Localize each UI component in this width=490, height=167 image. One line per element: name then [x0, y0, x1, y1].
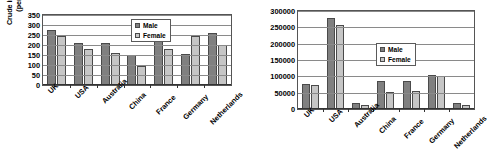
plot-area-left: Male Female: [42, 14, 232, 86]
gridline: [43, 45, 231, 46]
chart-panel-left: Crude incidence rate (per 100,000) 05010…: [0, 0, 245, 167]
y-axis-tick-label: 200: [28, 41, 40, 50]
y-axis-tick-label: 0: [291, 105, 295, 114]
legend-right: Male Female: [376, 43, 416, 66]
x-axis-category-labels-right: UKUSAAustraliaChinaFranceGermanyNetherla…: [297, 113, 475, 167]
x-axis-tick: [424, 109, 425, 112]
x-axis-tick: [399, 109, 400, 112]
y-axis-tick-label: 200000: [270, 39, 295, 48]
legend-swatch-female-icon: [135, 33, 140, 38]
gridline: [43, 75, 231, 76]
x-axis-line: [43, 84, 231, 85]
bar-female-uk: [311, 85, 319, 109]
y-axis-tick-label: 50: [32, 71, 40, 80]
plot-area-right: Male Female: [297, 10, 475, 110]
bar-female-china: [386, 92, 394, 109]
bar-male-germany: [181, 54, 190, 85]
legend-item-female: Female: [135, 32, 166, 39]
x-axis-tick: [150, 85, 151, 88]
legend-swatch-male-icon: [380, 47, 385, 52]
bar-male-france: [403, 81, 411, 109]
gridline: [298, 93, 474, 94]
legend-swatch-female-icon: [380, 57, 385, 62]
chart-panel-right: 050000100000150000200000250000300000 Mal…: [245, 0, 490, 167]
x-axis-label-china: China: [127, 90, 148, 111]
gridline: [298, 27, 474, 28]
y-axis-tick-label: 150000: [270, 56, 295, 65]
y-axis-tick-label: 300000: [270, 7, 295, 16]
legend-item-female: Female: [380, 56, 411, 63]
legend-item-male: Male: [380, 46, 411, 53]
legend-label-female: Female: [143, 32, 166, 39]
x-axis-tick: [97, 85, 98, 88]
x-axis-tick: [177, 85, 178, 88]
legend-label-female: Female: [388, 56, 411, 63]
legend-left: Male Female: [131, 19, 171, 42]
x-axis-tick: [323, 109, 324, 112]
y-axis-tick-label: 50000: [274, 88, 295, 97]
legend-swatch-male-icon: [135, 23, 140, 28]
x-axis-label-france: France: [402, 117, 426, 141]
y-axis-tick-label: 350: [28, 11, 40, 20]
y-axis-tick-label: 250000: [270, 23, 295, 32]
x-axis-label-netherlands: Netherlands: [208, 90, 245, 127]
x-axis-tick: [70, 85, 71, 88]
x-axis-tick: [449, 109, 450, 112]
y-axis-tick-labels-left: 050100150200250300350: [18, 14, 40, 86]
y-axis-tick-label: 0: [36, 81, 40, 90]
gridline: [43, 15, 231, 16]
gridline: [298, 76, 474, 77]
bar-male-netherlands: [208, 33, 217, 85]
gridline: [298, 11, 474, 12]
x-axis-label-france: France: [154, 93, 178, 117]
x-axis-label-germany: Germany: [181, 92, 210, 121]
x-axis-tick: [204, 85, 205, 88]
y-axis-tick-label: 250: [28, 31, 40, 40]
x-axis-label-china: China: [377, 114, 398, 135]
y-axis-tick-label: 100: [28, 61, 40, 70]
bar-male-china: [127, 55, 136, 85]
gridline: [43, 55, 231, 56]
y-axis-tick-label: 150: [28, 51, 40, 60]
x-axis-label-netherlands: Netherlands: [452, 114, 489, 151]
bar-female-uk: [57, 36, 66, 85]
figure-container: Crude incidence rate (per 100,000) 05010…: [0, 0, 490, 167]
bar-female-germany: [191, 36, 200, 85]
bar-female-usa: [336, 25, 344, 109]
x-axis-line: [298, 108, 474, 109]
bar-male-usa: [327, 18, 335, 109]
legend-label-male: Male: [143, 22, 158, 29]
bar-male-usa: [74, 43, 83, 85]
bar-male-australia: [101, 43, 110, 85]
y-axis-tick-label: 100000: [270, 72, 295, 81]
gridline: [43, 65, 231, 66]
legend-label-male: Male: [388, 46, 403, 53]
bar-female-france: [412, 91, 420, 109]
y-axis-tick-label: 300: [28, 21, 40, 30]
y-axis-title-line-2: (per 100,000): [15, 0, 24, 12]
x-axis-label-germany: Germany: [427, 116, 456, 145]
x-axis-category-labels-left: UKUSAAustraliaChinaFranceGermanyNetherla…: [42, 89, 232, 149]
legend-item-male: Male: [135, 22, 166, 29]
x-axis-tick: [348, 109, 349, 112]
y-axis-tick-labels-right: 050000100000150000200000250000300000: [245, 10, 295, 110]
bar-male-uk: [47, 30, 56, 85]
